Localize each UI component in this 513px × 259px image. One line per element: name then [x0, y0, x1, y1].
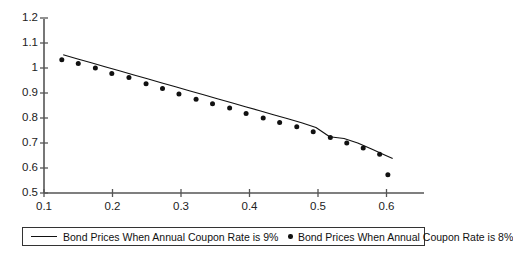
- legend-dot-swatch-icon: [288, 234, 293, 239]
- axis-ticks: [40, 18, 387, 197]
- legend-entry-coupon-9: Bond Prices When Annual Coupon Rate is 9…: [23, 231, 278, 243]
- x-tick-label: 0.5: [298, 200, 338, 212]
- x-tick-label: 0.3: [161, 200, 201, 212]
- series-markers-coupon-8: [59, 57, 390, 177]
- y-tick-label: 0.6: [6, 161, 38, 173]
- legend-label-coupon-8: Bond Prices When Annual Coupon Rate is 8…: [298, 231, 513, 243]
- y-tick-label: 0.7: [6, 136, 38, 148]
- y-tick-label: 0.9: [6, 86, 38, 98]
- x-tick-label: 0.6: [367, 200, 407, 212]
- y-tick-label: 0.5: [6, 186, 38, 198]
- x-tick-label: 0.4: [230, 200, 270, 212]
- legend-line-swatch-icon: [31, 236, 57, 237]
- x-tick-label: 0.1: [24, 200, 64, 212]
- legend-entry-coupon-8: Bond Prices When Annual Coupon Rate is 8…: [278, 231, 513, 243]
- y-tick-label: 0.8: [6, 111, 38, 123]
- legend-label-coupon-9: Bond Prices When Annual Coupon Rate is 9…: [63, 231, 278, 243]
- y-tick-label: 1.1: [6, 36, 38, 48]
- x-tick-label: 0.2: [93, 200, 133, 212]
- chart-axes: [44, 19, 424, 193]
- chart-legend: Bond Prices When Annual Coupon Rate is 9…: [22, 227, 425, 246]
- y-tick-label: 1.2: [6, 11, 38, 23]
- y-tick-label: 1: [6, 61, 38, 73]
